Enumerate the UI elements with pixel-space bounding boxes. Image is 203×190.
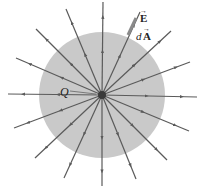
charge-label: Q bbox=[60, 85, 69, 99]
area-vector-arrow: → bbox=[143, 25, 150, 33]
field-vector-arrow: → bbox=[140, 7, 147, 15]
area-vector-prefix: d bbox=[136, 30, 142, 42]
point-charge bbox=[98, 91, 106, 99]
area-vector-da bbox=[128, 18, 136, 35]
gauss-law-diagram: Q E → d A → bbox=[0, 0, 203, 190]
